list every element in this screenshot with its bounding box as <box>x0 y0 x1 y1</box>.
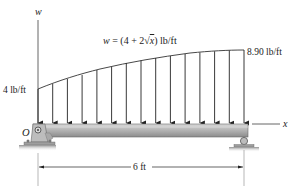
span-dimension: 6 ft <box>38 150 244 186</box>
beam-load-diagram: w w = (4 + 2√x) lb/ft 4 lb/ft 8.90 lb/ft… <box>0 0 295 196</box>
roller-icon <box>240 137 247 144</box>
equation-units: ) lb/ft <box>154 35 177 47</box>
left-intensity-label: 4 lb/ft <box>3 85 26 95</box>
right-intensity-label: 8.90 lb/ft <box>247 47 282 57</box>
w-axis: w <box>35 6 42 125</box>
w-axis-label: w <box>35 6 42 17</box>
equation-middle: = (4 + 2 <box>110 35 145 47</box>
load-equation: w = (4 + 2√x) lb/ft <box>103 35 177 47</box>
origin-label: O <box>22 127 30 138</box>
distributed-load-arrows <box>38 50 244 123</box>
beam <box>33 124 248 137</box>
span-dimension-label: 6 ft <box>133 162 146 172</box>
roller-support <box>229 137 259 152</box>
x-axis-label: x <box>282 118 288 129</box>
x-axis: x <box>252 118 288 129</box>
